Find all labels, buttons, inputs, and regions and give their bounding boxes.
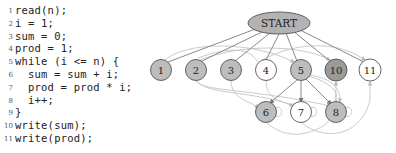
dependence-graph: START 1 2 3 4 5 10 11 6 7 8 [0,0,396,153]
graph-node: 8 [326,102,347,123]
graph-node: 2 [186,60,207,81]
graph-node: 6 [256,102,277,123]
start-node: START [248,12,310,34]
svg-text:5: 5 [298,65,304,76]
svg-text:2: 2 [193,65,199,76]
svg-text:11: 11 [364,65,377,76]
graph-node: 5 [291,60,312,81]
graph-node: 10 [325,59,347,81]
graph-node: 3 [221,60,242,81]
graph-node: 4 [256,60,277,81]
svg-text:10: 10 [330,65,343,76]
graph-node: 1 [151,60,172,81]
graph-node: 11 [359,59,381,81]
start-label: START [261,17,297,29]
svg-text:6: 6 [263,107,269,118]
svg-text:8: 8 [333,107,339,118]
svg-text:1: 1 [158,65,164,76]
svg-text:4: 4 [263,65,269,76]
svg-text:7: 7 [298,107,304,118]
svg-text:3: 3 [228,65,234,76]
graph-node: 7 [291,102,312,123]
